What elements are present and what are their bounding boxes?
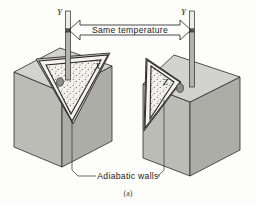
right-thermometer-bulb [177,84,184,93]
system-x-label: X [94,61,101,71]
left-thermometer-upper-stem [66,11,71,29]
adiabatic-walls-label: Adiabatic walls [97,171,158,181]
figure-caption: (a) [124,189,133,198]
figure-canvas: X Z Y [0,0,256,206]
same-temperature-label: Same temperature [92,25,168,35]
left-thermometer-lower-stem [66,32,71,80]
thermodynamics-figure: X Z Y [0,0,256,206]
left-bulb-group [57,78,64,86]
right-thermometer-upper-stem [190,11,195,29]
right-thermometer-lower-stem [190,32,195,87]
left-thermometer-bulb [57,78,64,86]
